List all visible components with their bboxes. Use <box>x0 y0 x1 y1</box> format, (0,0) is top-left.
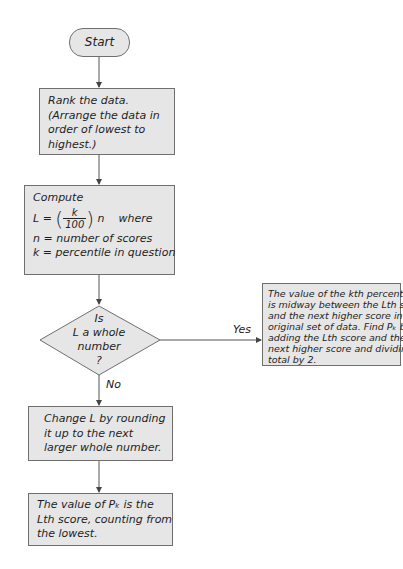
yes-line-5: adding the Lth score and the <box>268 332 395 343</box>
formula-lhs: L = <box>33 212 52 225</box>
change-line-3: larger whole number. <box>44 441 157 456</box>
final-line-3: the lowest. <box>37 527 164 542</box>
rank-box: Rank the data. (Arrange the data in orde… <box>39 88 175 155</box>
no-label: No <box>106 378 121 391</box>
change-line-2: it up to the next <box>44 427 157 442</box>
yes-line-7: total by 2. <box>268 354 395 365</box>
rank-line-1: Rank the data. <box>48 94 166 109</box>
decision-line-1: Is <box>59 312 139 326</box>
yes-line-4: original set of data. Find Pₖ by <box>268 321 395 332</box>
final-box: The value of Pₖ is the Lth score, counti… <box>28 493 173 546</box>
yes-result-box: The value of the kth percentile is midwa… <box>262 283 401 366</box>
compute-title: Compute <box>33 191 166 206</box>
compute-def-k: k = percentile in question <box>33 246 166 261</box>
formula-var: n <box>98 212 105 225</box>
decision-text: Is L a whole number ? <box>59 312 139 368</box>
formula-fraction: k100 <box>63 207 86 230</box>
start-label: Start <box>85 35 114 49</box>
compute-def-n: n = number of scores <box>33 232 166 247</box>
decision-line-4: ? <box>59 354 139 368</box>
rank-line-4: highest.) <box>48 138 166 153</box>
yes-label: Yes <box>233 323 251 336</box>
change-box: Change L by rounding it up to the next l… <box>28 406 173 461</box>
decision-line-3: number <box>59 340 139 354</box>
change-line-1: Change L by rounding <box>44 412 157 427</box>
rank-line-2: (Arrange the data in <box>48 109 166 124</box>
yes-line-3: and the next higher score in the <box>268 310 395 321</box>
yes-line-1: The value of the kth percentile <box>268 288 395 299</box>
final-line-2: Lth score, counting from <box>37 513 164 528</box>
formula-where: where <box>119 212 153 225</box>
yes-line-6: next higher score and dividing the <box>268 343 395 354</box>
compute-box: Compute L = (k100) n where n = number of… <box>24 185 175 275</box>
final-line-1: The value of Pₖ is the <box>37 498 164 513</box>
start-node: Start <box>69 28 130 57</box>
rank-line-3: order of lowest to <box>48 123 166 138</box>
yes-line-2: is midway between the Lth score <box>268 299 395 310</box>
compute-formula: L = (k100) n where <box>33 206 166 232</box>
decision-line-2: L a whole <box>59 326 139 340</box>
